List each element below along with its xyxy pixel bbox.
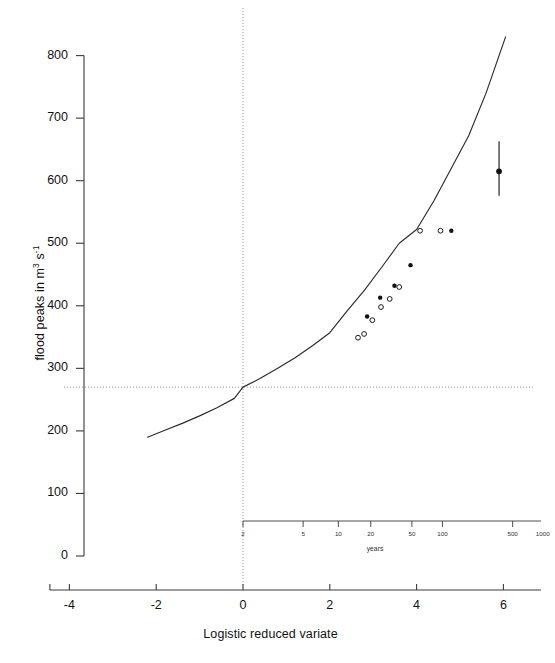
data-point-filled xyxy=(392,284,396,288)
secondary-tick-label: 100 xyxy=(429,530,455,537)
secondary-tick-label: 500 xyxy=(500,530,526,537)
secondary-tick-label: 1000 xyxy=(530,530,555,537)
data-point-open xyxy=(438,228,443,233)
data-point-filled xyxy=(378,295,382,299)
data-point-open xyxy=(370,318,375,323)
y-tick-label: 700 xyxy=(22,110,68,124)
data-point-open xyxy=(387,297,392,302)
y-axis-title-sup1: 3 xyxy=(31,263,41,268)
data-point-estimate xyxy=(496,168,502,174)
y-tick-label: 100 xyxy=(22,485,68,499)
x-axis-title: Logistic reduced variate xyxy=(0,627,541,641)
x-tick-label: -2 xyxy=(136,598,176,612)
x-tick-label: 4 xyxy=(397,598,437,612)
secondary-tick-label: 5 xyxy=(290,530,316,537)
y-axis-title-mid: s xyxy=(33,253,47,263)
secondary-tick-label: 2 xyxy=(230,530,256,537)
y-axis-title-prefix: flood peaks in m xyxy=(33,268,47,361)
data-point-open xyxy=(379,305,384,310)
secondary-tick-label: 50 xyxy=(399,530,425,537)
secondary-tick-label: 20 xyxy=(358,530,384,537)
data-point-filled xyxy=(408,263,412,267)
x-tick-label: -4 xyxy=(49,598,89,612)
data-point-open xyxy=(362,332,367,337)
secondary-axis-title: years xyxy=(345,545,405,552)
y-tick-label: 400 xyxy=(22,298,68,312)
y-tick-label: 0 xyxy=(22,548,68,562)
fitted-curve xyxy=(148,37,506,437)
data-point-open xyxy=(397,285,402,290)
data-point-open xyxy=(418,228,423,233)
y-tick-label: 300 xyxy=(22,360,68,374)
data-point-open xyxy=(356,335,361,340)
data-point-filled xyxy=(365,314,369,318)
x-tick-label: 2 xyxy=(310,598,350,612)
data-point-filled xyxy=(449,229,453,233)
x-tick-label: 6 xyxy=(483,598,523,612)
y-tick-label: 600 xyxy=(22,173,68,187)
y-tick-label: 800 xyxy=(22,48,68,62)
secondary-tick-label: 10 xyxy=(325,530,351,537)
x-tick-label: 0 xyxy=(223,598,263,612)
y-tick-label: 500 xyxy=(22,235,68,249)
y-tick-label: 200 xyxy=(22,423,68,437)
